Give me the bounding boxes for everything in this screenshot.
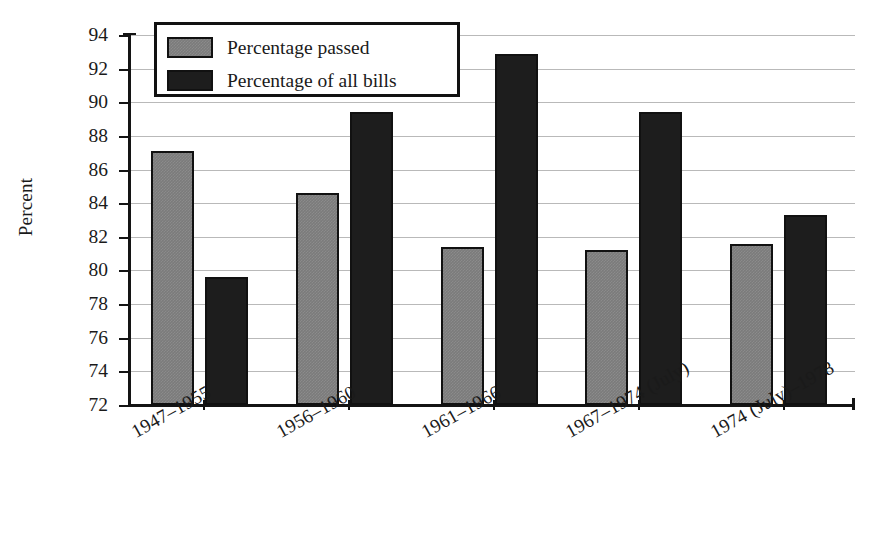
chart-legend: Percentage passedPercentage of all bills (154, 22, 460, 97)
y-axis-tick-label: 80 (58, 260, 108, 280)
gridline (131, 136, 855, 137)
bar (730, 244, 773, 405)
bar-chart-figure: Percent 727476788082848688909294 1947–19… (0, 0, 895, 551)
bar (441, 247, 484, 405)
legend-label: Percentage of all bills (227, 71, 396, 91)
y-axis-tick (119, 304, 131, 306)
y-axis-tick-label: 72 (58, 395, 108, 415)
gridline (131, 203, 855, 204)
y-axis-tick (119, 203, 131, 205)
y-axis-tick-labels: 727476788082848688909294 (0, 0, 116, 551)
y-axis-tick (119, 35, 131, 37)
bar (350, 112, 393, 405)
legend-swatch (167, 37, 213, 58)
gridline (131, 170, 855, 171)
legend-item: Percentage passed (167, 31, 447, 64)
bar (151, 151, 194, 405)
y-axis-tick-label: 76 (58, 328, 108, 348)
y-axis-tick (119, 69, 131, 71)
legend-swatch (167, 70, 213, 91)
legend-item: Percentage of all bills (167, 64, 447, 97)
y-axis-tick (119, 270, 131, 272)
y-axis-tick-label: 82 (58, 227, 108, 247)
y-axis-tick-label: 92 (58, 59, 108, 79)
legend-label: Percentage passed (227, 38, 369, 58)
y-axis-tick-label: 88 (58, 126, 108, 146)
y-axis-tick (119, 371, 131, 373)
bar (205, 277, 248, 405)
y-axis-tick (119, 136, 131, 138)
bar (296, 193, 339, 405)
y-axis-tick (119, 102, 131, 104)
y-axis-tick-label: 74 (58, 361, 108, 381)
gridline (131, 237, 855, 238)
y-axis-tick (119, 338, 131, 340)
bar (495, 54, 538, 406)
x-axis-tick-labels: 1947–19551956–19601961–19661967–1974 (Ju… (131, 408, 855, 538)
y-axis-tick-label: 86 (58, 160, 108, 180)
y-axis-tick-label: 84 (58, 193, 108, 213)
y-axis-tick-label: 94 (58, 25, 108, 45)
gridline (131, 102, 855, 103)
bar (585, 250, 628, 405)
y-axis-tick-label: 78 (58, 294, 108, 314)
y-axis-tick (119, 237, 131, 239)
y-axis-tick (119, 170, 131, 172)
y-axis-tick-label: 90 (58, 92, 108, 112)
y-axis-tick (119, 405, 131, 407)
